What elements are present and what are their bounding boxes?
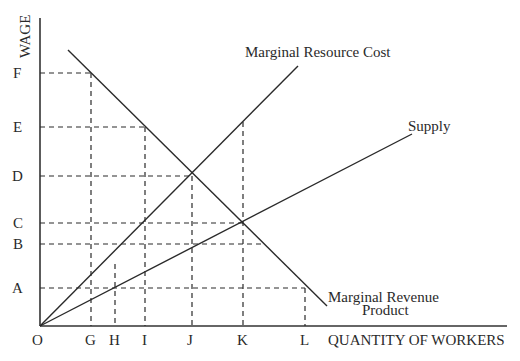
origin-label: O (32, 332, 43, 348)
x-tick-j: J (187, 332, 193, 348)
mrc-label: Marginal Resource Cost (245, 44, 391, 60)
x-tick-i: I (142, 332, 147, 348)
y-tick-a: A (12, 280, 23, 296)
y-tick-f: F (13, 65, 21, 81)
y-tick-d: D (12, 168, 23, 184)
y-tick-e: E (13, 119, 22, 135)
y-tick-c: C (13, 215, 23, 231)
x-tick-h: H (109, 332, 120, 348)
x-tick-g: G (85, 332, 96, 348)
x-tick-k: K (237, 332, 248, 348)
supply-label: Supply (408, 118, 451, 134)
mrp-curve (68, 50, 327, 306)
mrp-label-line2: Product (362, 302, 409, 318)
y-tick-b: B (13, 236, 23, 252)
labor-market-diagram: WAGE Marginal (0, 0, 520, 361)
x-tick-l: L (300, 332, 309, 348)
y-axis-label: WAGE (17, 15, 33, 58)
mrc-curve (40, 66, 298, 326)
x-axis-label: QUANTITY OF WORKERS (328, 332, 505, 348)
guide-lines (40, 73, 305, 326)
